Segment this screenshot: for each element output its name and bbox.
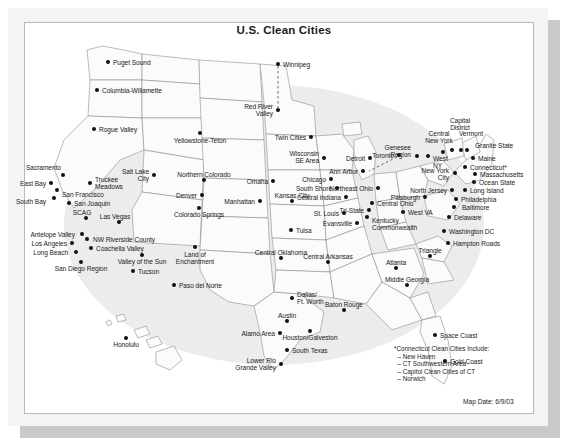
city-marker-ann-arbor[interactable] <box>361 169 365 173</box>
city-marker-nw-riverside-county[interactable] <box>85 237 89 241</box>
city-label-philadelphia: Philadelphia <box>461 196 496 203</box>
city-marker-kansas-city[interactable] <box>290 199 294 203</box>
city-label-ann-arbor: Ann Arbor <box>329 168 358 175</box>
city-label-middle-georgia: Middle Georgia <box>347 276 467 283</box>
city-marker-denver[interactable] <box>200 193 204 197</box>
city-marker-atlanta[interactable] <box>394 266 398 270</box>
city-marker-tucson[interactable] <box>131 269 135 273</box>
city-marker-paso-del-norte[interactable] <box>172 283 176 287</box>
city-marker-colorado-springs[interactable] <box>197 206 201 210</box>
screenshot-root: U.S. Clean Cities <box>0 0 568 445</box>
city-marker-los-angeles[interactable] <box>70 241 74 245</box>
city-marker-coachella-valley[interactable] <box>89 246 93 250</box>
page-title: U.S. Clean Cities <box>0 24 568 36</box>
city-label-tri-state: Tri-State <box>339 207 364 214</box>
map-date: Map Date: 6/9/03 <box>463 398 514 405</box>
city-label-baltimore: Baltimore <box>462 204 489 211</box>
city-marker-san-joaquin[interactable] <box>67 201 71 205</box>
city-marker-red-river-valley[interactable] <box>276 108 280 112</box>
city-marker-massachusetts[interactable] <box>473 172 477 176</box>
city-marker-baltimore[interactable] <box>452 205 456 209</box>
city-marker-austin[interactable] <box>285 319 289 323</box>
city-marker-alamo-area[interactable] <box>278 331 282 335</box>
city-label-washington-dc: Washington DC <box>449 228 494 235</box>
city-marker-omaha[interactable] <box>271 179 275 183</box>
city-marker-winnipeg[interactable] <box>276 62 280 66</box>
city-marker-northern-colorado[interactable] <box>202 178 206 182</box>
city-marker-delaware[interactable] <box>447 215 451 219</box>
city-label-triangle: Triangle <box>370 247 490 254</box>
city-marker-truckee-meadows[interactable] <box>88 181 92 185</box>
city-marker-twin-cities[interactable] <box>309 135 313 139</box>
city-marker-puget-sound[interactable] <box>106 60 110 64</box>
city-marker-land-of-enchantment[interactable] <box>193 245 197 249</box>
city-marker-pittsburgh[interactable] <box>423 195 427 199</box>
city-label-delaware: Delaware <box>454 214 481 221</box>
city-marker-yellowstone-teton[interactable] <box>198 131 202 135</box>
city-marker-antelope-valley[interactable] <box>80 232 84 236</box>
city-marker-genesee-region[interactable] <box>415 154 419 158</box>
city-label-red-river-valley: Red River Valley <box>244 103 273 118</box>
city-marker-south-bay[interactable] <box>52 196 56 200</box>
city-label-yellowstone-teton: Yellowstone-Teton <box>140 137 260 144</box>
city-label-twin-cities: Twin Cities <box>275 134 306 141</box>
city-marker-dallas-ft-worth[interactable] <box>290 296 294 300</box>
city-marker-middle-georgia[interactable] <box>405 283 409 287</box>
city-label-tucson: Tucson <box>138 268 159 275</box>
city-label-paso-del-norte: Paso del Norte <box>179 282 222 289</box>
city-marker-houston-galveston[interactable] <box>308 329 312 333</box>
city-label-central-indiana: Central Indiana <box>297 194 341 201</box>
city-marker-columbia-willamette[interactable] <box>95 88 99 92</box>
city-marker-tri-state[interactable] <box>367 208 371 212</box>
city-marker-space-coast[interactable] <box>433 333 437 337</box>
city-marker-central-arkansas[interactable] <box>326 260 330 264</box>
city-label-nw-riverside-county: NW Riverside County <box>93 236 155 243</box>
city-marker-granite-state[interactable] <box>465 148 469 152</box>
city-label-maine: Maine <box>478 155 496 162</box>
city-marker-wisconsin-se-area[interactable] <box>322 156 326 160</box>
city-label-alamo-area: Alamo Area <box>241 330 275 337</box>
city-label-las-vegas: Las Vegas <box>55 213 175 220</box>
city-marker-maine[interactable] <box>471 156 475 160</box>
city-label-truckee-meadows: Truckee Meadows <box>95 176 123 191</box>
city-marker-long-beach[interactable] <box>74 250 78 254</box>
city-marker-tulsa[interactable] <box>289 228 293 232</box>
city-marker-central-indiana[interactable] <box>344 195 348 199</box>
city-marker-hampton-roads[interactable] <box>446 241 450 245</box>
city-marker-north-jersey[interactable] <box>450 188 454 192</box>
city-marker-east-bay[interactable] <box>49 181 53 185</box>
city-label-south-texas: South Texas <box>292 347 328 354</box>
city-label-genesee-region: Genesee Region <box>385 144 411 159</box>
city-marker-philadelphia[interactable] <box>454 197 458 201</box>
city-label-rogue-valley: Rogue Valley <box>99 126 137 133</box>
city-marker-northeast-ohio[interactable] <box>376 186 380 190</box>
city-marker-rogue-valley[interactable] <box>92 127 96 131</box>
city-marker-honolulu[interactable] <box>124 336 128 340</box>
city-marker-las-vegas[interactable] <box>117 220 121 224</box>
city-marker-chicago[interactable] <box>329 177 333 181</box>
city-marker-kentucky-commonwealth[interactable] <box>365 215 369 219</box>
city-marker-washington-dc[interactable] <box>442 229 446 233</box>
city-marker-central-ohio[interactable] <box>370 201 374 205</box>
city-marker-connecticut[interactable] <box>463 165 467 169</box>
city-marker-triangle[interactable] <box>428 254 432 258</box>
city-marker-long-island[interactable] <box>463 188 467 192</box>
city-marker-sacramento[interactable] <box>61 173 65 177</box>
city-marker-vermont[interactable] <box>459 148 463 152</box>
city-marker-baton-rouge[interactable] <box>342 308 346 312</box>
city-marker-west-ny[interactable] <box>426 154 430 158</box>
city-label-east-bay: East Bay <box>20 180 46 187</box>
city-marker-capital-district[interactable] <box>450 148 454 152</box>
city-marker-lower-rio-grande-valley[interactable] <box>279 362 283 366</box>
city-marker-west-va[interactable] <box>401 210 405 214</box>
city-label-granite-state: Granite State <box>475 142 513 149</box>
city-marker-ocean-state[interactable] <box>472 180 476 184</box>
city-label-los-angeles: Los Angeles <box>32 240 67 247</box>
city-marker-new-york-city[interactable] <box>453 171 457 175</box>
city-label-detroit: Detroit <box>346 155 365 162</box>
city-marker-manhattan[interactable] <box>258 199 262 203</box>
city-marker-san-francisco[interactable] <box>55 188 59 192</box>
city-marker-central-new-york[interactable] <box>441 150 445 154</box>
city-marker-evansville[interactable] <box>355 221 359 225</box>
city-marker-south-texas[interactable] <box>285 348 289 352</box>
